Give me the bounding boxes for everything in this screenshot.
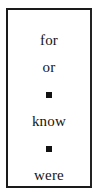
square-bullet-icon [46, 92, 52, 98]
list-item-word: for [8, 27, 90, 54]
word-label: or [43, 60, 56, 75]
word-label: for [40, 33, 58, 48]
word-list-card: for or know were [0, 0, 105, 196]
list-item-bullet [46, 135, 52, 162]
square-bullet-icon [46, 146, 52, 152]
list-item-word: know [8, 108, 90, 135]
bordered-panel: for or know were [6, 8, 92, 188]
word-list: for or know were [8, 27, 90, 189]
list-item-word: were [8, 162, 90, 189]
word-label: know [32, 114, 66, 129]
word-label: were [34, 168, 64, 183]
list-item-word: or [8, 54, 90, 81]
list-item-bullet [46, 81, 52, 108]
